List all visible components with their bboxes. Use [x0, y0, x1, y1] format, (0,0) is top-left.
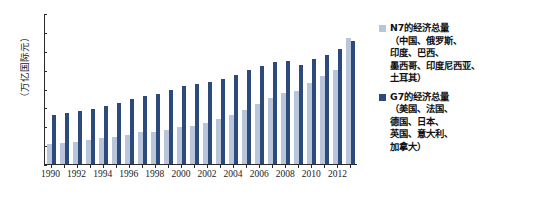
bar-g7: [91, 109, 95, 164]
legend-series-detail: 英国、意大利、: [390, 128, 453, 141]
bar-group: [175, 14, 188, 164]
bar-g7: [325, 55, 329, 164]
bar-group: [84, 14, 97, 164]
legend-series-detail: 土耳其）: [390, 72, 480, 85]
bar-group: [305, 14, 318, 164]
y-axis-tick-mark: [44, 71, 47, 72]
bar-g7: [273, 62, 277, 164]
x-axis-tick-label: 1992: [67, 169, 86, 179]
x-axis-tick-mark: [168, 165, 169, 168]
legend-row: G7的经济总量（美国、法国、德国、日本、英国、意大利、加拿大）: [379, 91, 543, 154]
x-axis-tick-mark: [272, 165, 273, 168]
legend-label: N7的经济总量（中国、俄罗斯、印度、巴西、墨西哥、印度尼西亚、土耳其）: [390, 22, 480, 85]
legend-series-name: N7的经济总量: [390, 22, 480, 35]
x-axis-tick-mark: [220, 165, 221, 168]
legend-series-detail: 印度、巴西、: [390, 47, 480, 60]
bar-g7: [286, 61, 290, 164]
bar-series-container: [45, 14, 357, 164]
legend-series-detail: 德国、日本、: [390, 116, 453, 129]
bar-g7: [169, 90, 173, 164]
bar-g7: [143, 96, 147, 164]
x-axis-tick-label: 2000: [171, 169, 190, 179]
x-axis-tick-mark: [181, 165, 182, 168]
bar-group: [331, 14, 344, 164]
y-axis-title: （万亿国际元）: [17, 17, 31, 117]
plot-area: [44, 14, 357, 165]
bar-g7: [130, 99, 134, 164]
legend-series-name: G7的经济总量: [390, 91, 453, 104]
x-axis-tick-mark: [116, 165, 117, 168]
legend-entry: G7的经济总量（美国、法国、德国、日本、英国、意大利、加拿大）: [379, 91, 543, 154]
bar-g7: [312, 59, 316, 164]
x-axis-tick-mark: [103, 165, 104, 168]
x-axis-tick-mark: [311, 165, 312, 168]
bar-g7: [52, 115, 56, 164]
x-axis-tick-mark: [246, 165, 247, 168]
bar-group: [162, 14, 175, 164]
legend-swatch-n7: [379, 25, 386, 32]
legend-series-detail: （美国、法国、: [390, 103, 453, 116]
x-axis-tick-label: 1998: [145, 169, 164, 179]
y-axis-tick-mark: [44, 146, 47, 147]
bar-group: [201, 14, 214, 164]
bar-g7: [65, 113, 69, 164]
bar-g7: [208, 82, 212, 164]
bar-g7: [221, 79, 225, 164]
y-axis-tick-mark: [44, 14, 47, 15]
legend-entry: N7的经济总量（中国、俄罗斯、印度、巴西、墨西哥、印度尼西亚、土耳其）: [379, 22, 543, 85]
bar-group: [240, 14, 253, 164]
x-axis-tick-mark: [64, 165, 65, 168]
bar-group: [136, 14, 149, 164]
bar-g7: [351, 41, 355, 164]
y-axis-tick-mark: [44, 52, 47, 53]
legend-swatch-g7: [379, 94, 386, 101]
bar-g7: [78, 111, 82, 164]
x-axis-tick-mark: [90, 165, 91, 168]
bar-group: [214, 14, 227, 164]
bar-group: [110, 14, 123, 164]
bar-group: [71, 14, 84, 164]
bar-g7: [117, 103, 121, 164]
bar-group: [188, 14, 201, 164]
bar-group: [227, 14, 240, 164]
bar-g7: [299, 65, 303, 164]
x-axis-tick-label: 1996: [119, 169, 138, 179]
bar-group: [266, 14, 279, 164]
x-axis-tick-mark: [337, 165, 338, 168]
bar-group: [253, 14, 266, 164]
x-axis-tick-label: 1990: [41, 169, 60, 179]
y-axis-tick-mark: [44, 33, 47, 34]
legend-series-detail: 墨西哥、印度尼西亚、: [390, 60, 480, 73]
bar-group: [344, 14, 357, 164]
x-axis-tick-label: 2002: [198, 169, 217, 179]
legend-series-detail: （中国、俄罗斯、: [390, 35, 480, 48]
x-axis-tick-mark: [350, 165, 351, 168]
x-axis-tick-mark: [129, 165, 130, 168]
bar-group: [97, 14, 110, 164]
bar-g7: [260, 66, 264, 164]
x-axis-tick-label: 2006: [250, 169, 269, 179]
x-axis-tick-mark: [298, 165, 299, 168]
bar-g7: [104, 106, 108, 164]
y-axis-tick-mark: [44, 127, 47, 128]
bar-group: [123, 14, 136, 164]
bar-group: [292, 14, 305, 164]
x-axis-tick-label: 2010: [302, 169, 321, 179]
x-axis-tick-mark: [285, 165, 286, 168]
bar-g7: [195, 84, 199, 164]
x-axis-tick-label: 1994: [93, 169, 112, 179]
x-axis-tick-mark: [259, 165, 260, 168]
bar-group: [279, 14, 292, 164]
x-axis-tick-label: 2012: [328, 169, 347, 179]
chart-legend: N7的经济总量（中国、俄罗斯、印度、巴西、墨西哥、印度尼西亚、土耳其）G7的经济…: [379, 22, 543, 159]
y-axis-tick-mark: [44, 108, 47, 109]
bar-g7: [247, 70, 251, 164]
legend-series-detail: 加拿大）: [390, 141, 453, 154]
chart-figure: （万亿国际元） 00.51.01.52.02.53.03.54.0 199019…: [0, 0, 543, 199]
x-axis-tick-mark: [194, 165, 195, 168]
x-axis-tick-mark: [233, 165, 234, 168]
bar-g7: [338, 49, 342, 164]
legend-label: G7的经济总量（美国、法国、德国、日本、英国、意大利、加拿大）: [390, 91, 453, 154]
x-axis-tick-mark: [77, 165, 78, 168]
bar-group: [58, 14, 71, 164]
